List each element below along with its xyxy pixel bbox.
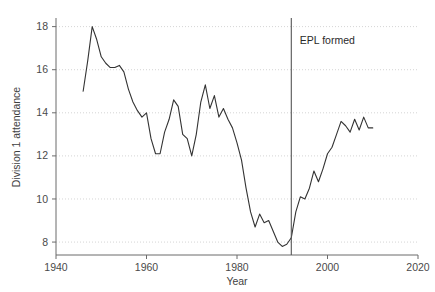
x-axis-ticks xyxy=(56,255,418,259)
x-tick-label: 1960 xyxy=(135,261,159,273)
y-axis-title: Division 1 attendance xyxy=(10,87,22,188)
chart-plot-area: 19401960198020002020 81012141618 EPL for… xyxy=(0,0,435,292)
x-tick-label: 2020 xyxy=(406,261,430,273)
y-tick-label: 18 xyxy=(36,20,48,32)
x-tick-label: 2000 xyxy=(316,261,340,273)
attendance-series-line xyxy=(83,27,373,247)
x-axis-title: Year xyxy=(226,275,248,287)
y-tick-label: 12 xyxy=(36,149,48,161)
y-axis-ticks xyxy=(52,27,56,242)
attendance-chart: 19401960198020002020 81012141618 EPL for… xyxy=(0,0,435,292)
gridlines-group xyxy=(56,27,418,242)
y-axis-tick-labels: 81012141618 xyxy=(36,20,48,247)
x-tick-label: 1940 xyxy=(44,261,68,273)
epl-formed-annotation-label: EPL formed xyxy=(300,34,355,46)
y-tick-label: 10 xyxy=(36,193,48,205)
x-axis-tick-labels: 19401960198020002020 xyxy=(44,261,430,273)
y-tick-label: 8 xyxy=(42,236,48,248)
y-tick-label: 16 xyxy=(36,63,48,75)
x-tick-label: 1980 xyxy=(225,261,249,273)
y-tick-label: 14 xyxy=(36,106,48,118)
